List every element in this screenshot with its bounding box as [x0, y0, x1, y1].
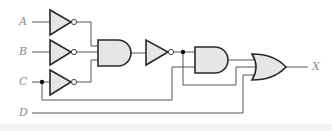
output-label-x: X: [312, 61, 320, 72]
input-label-d: D: [19, 107, 28, 118]
or-gate: [252, 54, 286, 80]
wire-inv-c-out: [77, 60, 98, 82]
wire-inv-a-out: [77, 22, 98, 46]
inverter-c: [50, 70, 77, 95]
not-gate-icon: [146, 40, 168, 65]
and1-input-wires: [77, 22, 98, 82]
inversion-bubble: [168, 49, 173, 54]
and-gate-1: [98, 40, 131, 66]
input-label-b: B: [19, 46, 27, 57]
junction-dot-inv4: [181, 50, 185, 54]
not-gate-icon: [50, 40, 71, 65]
inversion-bubble: [71, 49, 76, 54]
input-label-a: A: [19, 16, 27, 27]
not-gate-icon: [50, 70, 71, 95]
inverter-a: [50, 10, 77, 35]
inversion-bubble: [71, 19, 76, 24]
and-gate-2: [195, 47, 228, 73]
logic-circuit-diagram: [0, 0, 332, 131]
not-gate-icon: [50, 10, 71, 35]
inversion-bubble: [71, 79, 76, 84]
junction-dot-c: [40, 80, 44, 84]
bottom-border-strip: [0, 124, 332, 131]
input-label-c: C: [19, 76, 27, 87]
inverter-4: [146, 40, 174, 65]
inverter-b: [50, 40, 77, 65]
